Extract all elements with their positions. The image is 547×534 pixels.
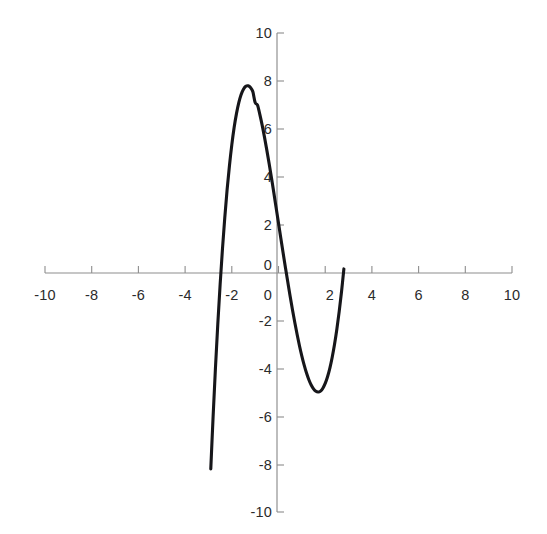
- x-tick-label-6: 6: [414, 287, 422, 303]
- x-tick-label-4: 4: [368, 287, 376, 303]
- x-tick-label-2: 2: [326, 287, 334, 303]
- x-tick-label--8: -8: [85, 287, 98, 303]
- x-tick-label--10: -10: [34, 287, 56, 303]
- x-tick-label--4: -4: [178, 287, 191, 303]
- cubic-function-graph: -10 -8 -6 -4 -2 0 2 4 6 8 10 10 8 6 4 2 …: [0, 0, 547, 534]
- x-tick-label-8: 8: [461, 287, 469, 303]
- y-tick-label-0: 0: [264, 257, 272, 273]
- y-tick-label--6: -6: [259, 409, 272, 425]
- x-axis-ticks: [45, 266, 512, 273]
- x-tick-label-10: 10: [504, 287, 521, 303]
- y-tick-label-2: 2: [264, 217, 272, 233]
- y-tick-label--10: -10: [250, 504, 272, 520]
- y-tick-label-8: 8: [264, 73, 272, 89]
- x-tick-label--2: -2: [225, 287, 238, 303]
- y-tick-label--2: -2: [259, 313, 272, 329]
- y-tick-label--8: -8: [259, 457, 272, 473]
- x-tick-label--6: -6: [132, 287, 145, 303]
- y-tick-label-10: 10: [255, 25, 272, 41]
- x-tick-label-0: 0: [264, 287, 272, 303]
- chart-canvas: -10 -8 -6 -4 -2 0 2 4 6 8 10 10 8 6 4 2 …: [0, 0, 547, 534]
- y-tick-label--4: -4: [259, 361, 272, 377]
